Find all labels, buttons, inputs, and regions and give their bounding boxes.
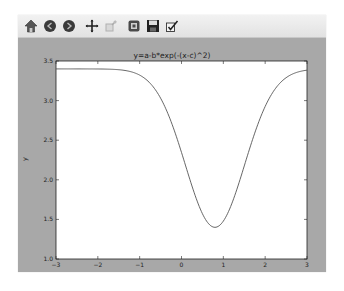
figure-canvas: y=a-b*exp(-(x-c)^2) −3−2−10123 1.01.52.0… (18, 38, 326, 272)
plot-area[interactable] (18, 38, 326, 272)
back-button[interactable] (43, 19, 57, 33)
zoom-button[interactable] (104, 19, 118, 33)
figure-window: y=a-b*exp(-(x-c)^2) −3−2−10123 1.01.52.0… (18, 15, 326, 272)
pan-button[interactable] (85, 19, 99, 33)
y-tick-label: 3.0 (38, 97, 53, 104)
configure-subplots-button[interactable] (127, 19, 141, 33)
save-button[interactable] (146, 19, 160, 33)
forward-icon (62, 19, 76, 33)
zoom-icon (104, 19, 118, 33)
back-icon (43, 19, 57, 33)
x-tick-label: −1 (134, 261, 146, 268)
y-tick-label: 1.5 (38, 215, 53, 222)
home-icon (24, 19, 38, 33)
x-tick-label: 0 (176, 261, 188, 268)
y-tick-label: 2.5 (38, 136, 53, 143)
edit-icon (165, 19, 179, 33)
y-tick-label: 2.0 (38, 176, 53, 183)
configure-subplots-icon (127, 19, 141, 33)
edit-curves-button[interactable] (165, 19, 179, 33)
x-tick-label: −3 (50, 261, 62, 268)
x-tick-label: 1 (217, 261, 229, 268)
pan-icon (85, 19, 99, 33)
x-tick-label: −2 (92, 261, 104, 268)
save-icon (146, 19, 160, 33)
home-button[interactable] (24, 19, 38, 33)
y-tick-label: 3.5 (38, 57, 53, 64)
forward-button[interactable] (62, 19, 76, 33)
x-tick-label: 2 (259, 261, 271, 268)
navigation-toolbar (18, 15, 326, 38)
y-tick-label: 1.0 (38, 255, 53, 262)
y-axis-label: y (21, 157, 29, 161)
axes-frame (56, 61, 307, 259)
x-tick-label: 3 (301, 261, 313, 268)
